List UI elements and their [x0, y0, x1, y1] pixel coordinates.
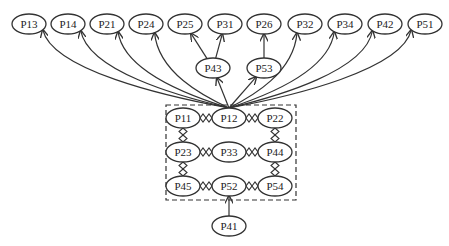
diamond-connector-icon	[271, 135, 279, 142]
node-label: P22	[266, 112, 283, 124]
diamond-connector-icon	[179, 169, 187, 176]
edge-p43-to-p25	[191, 33, 207, 58]
node-p51: P51	[408, 14, 442, 34]
node-label: P24	[137, 18, 155, 30]
link-p12-p22	[246, 114, 258, 122]
diamond-connector-icon	[206, 148, 212, 156]
node-label: P44	[266, 146, 284, 158]
node-p31: P31	[208, 14, 242, 34]
node-p11: P11	[166, 108, 200, 128]
node-label: P32	[296, 18, 313, 30]
diamond-connector-icon	[200, 114, 206, 122]
node-label: P42	[376, 18, 393, 30]
diamond-connector-icon	[246, 182, 252, 190]
diamond-connector-icon	[179, 162, 187, 169]
link-p33-p44	[246, 148, 258, 156]
node-label: P21	[98, 18, 115, 30]
diamond-connector-icon	[252, 182, 258, 190]
node-label: P45	[174, 180, 192, 192]
diamond-connector-icon	[206, 114, 212, 122]
node-p21: P21	[90, 14, 124, 34]
node-label: P23	[174, 146, 192, 158]
node-label: P33	[220, 146, 238, 158]
edge-p43-to-p31	[216, 34, 223, 58]
node-p23: P23	[166, 142, 200, 162]
node-label: P52	[220, 180, 237, 192]
node-label: P14	[59, 18, 77, 30]
node-label: P26	[255, 18, 273, 30]
precedence-diagram: P13P14P21P24P25P31P26P32P34P42P51P43P53P…	[0, 0, 449, 246]
node-label: P11	[175, 112, 192, 124]
node-label: P13	[20, 18, 38, 30]
node-p53: P53	[247, 58, 281, 78]
node-p43: P43	[196, 58, 230, 78]
diamond-connector-icon	[246, 148, 252, 156]
node-layer: P13P14P21P24P25P31P26P32P34P42P51P43P53P…	[12, 14, 442, 236]
diamond-connector-icon	[252, 148, 258, 156]
node-label: P12	[220, 112, 237, 124]
node-p45: P45	[166, 176, 200, 196]
node-label: P54	[266, 180, 284, 192]
node-label: P53	[255, 62, 273, 74]
node-p41: P41	[212, 216, 246, 236]
link-p23-p45	[179, 162, 187, 176]
node-p24: P24	[129, 14, 163, 34]
link-p45-p52	[200, 182, 212, 190]
diamond-connector-icon	[206, 182, 212, 190]
node-p14: P14	[51, 14, 85, 34]
node-p44: P44	[258, 142, 292, 162]
node-p32: P32	[288, 14, 322, 34]
link-p44-p54	[271, 162, 279, 176]
node-p26: P26	[247, 14, 281, 34]
node-label: P31	[216, 18, 233, 30]
diamond-connector-icon	[200, 182, 206, 190]
diamond-connector-icon	[200, 148, 206, 156]
diamond-connector-icon	[179, 128, 187, 135]
node-label: P43	[204, 62, 222, 74]
diamond-connector-icon	[271, 169, 279, 176]
node-p42: P42	[368, 14, 402, 34]
node-p13: P13	[12, 14, 46, 34]
link-p11-p12	[200, 114, 212, 122]
diamond-connector-icon	[271, 162, 279, 169]
diamond-connector-icon	[179, 135, 187, 142]
node-p33: P33	[212, 142, 246, 162]
node-p52: P52	[212, 176, 246, 196]
link-p22-p44	[271, 128, 279, 142]
node-label: P25	[176, 18, 194, 30]
node-p12: P12	[212, 108, 246, 128]
node-label: P34	[336, 18, 354, 30]
node-label: P41	[220, 220, 237, 232]
diamond-connector-icon	[271, 128, 279, 135]
diamond-connector-icon	[252, 114, 258, 122]
diagram-canvas: P13P14P21P24P25P31P26P32P34P42P51P43P53P…	[0, 0, 449, 246]
link-p11-p23	[179, 128, 187, 142]
node-p34: P34	[328, 14, 362, 34]
link-p23-p33	[200, 148, 212, 156]
node-p25: P25	[168, 14, 202, 34]
link-p52-p54	[246, 182, 258, 190]
node-p22: P22	[258, 108, 292, 128]
diamond-connector-icon	[246, 114, 252, 122]
node-label: P51	[416, 18, 433, 30]
node-p54: P54	[258, 176, 292, 196]
